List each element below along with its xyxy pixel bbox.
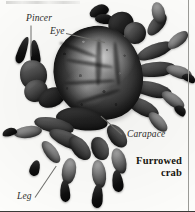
- label-pincer: Pincer: [26, 14, 52, 24]
- photo-vignette: [0, 0, 195, 212]
- pincer-leader-line: [31, 26, 32, 57]
- caption-line-1: Furrowed: [118, 155, 182, 167]
- page-column-rule: [188, 0, 189, 212]
- crab-photograph: [0, 0, 195, 212]
- cropped-text-remnant: [6, 1, 80, 4]
- caption-line-2: crab: [118, 167, 182, 179]
- crab-anatomy-figure: Pincer Eye Carapace Leg Furrowed crab: [0, 0, 195, 212]
- label-leg: Leg: [17, 192, 32, 202]
- page-bottom-rule: [0, 211, 195, 212]
- label-eye: Eye: [50, 27, 65, 37]
- label-carapace: Carapace: [127, 130, 165, 140]
- figure-caption: Furrowed crab: [118, 155, 182, 180]
